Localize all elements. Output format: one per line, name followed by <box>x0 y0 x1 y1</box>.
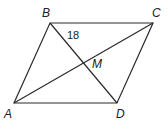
diagram-lines <box>0 0 168 126</box>
vertex-label-a: A <box>4 108 12 120</box>
vertex-label-d: D <box>116 108 125 120</box>
parallelogram-diagram: B C A D M 18 <box>0 0 168 126</box>
intersection-label-m: M <box>92 58 102 70</box>
segment-length-label: 18 <box>67 30 79 41</box>
diagonal-bd <box>50 23 117 103</box>
vertex-label-b: B <box>42 7 50 19</box>
vertex-label-c: C <box>152 7 161 19</box>
